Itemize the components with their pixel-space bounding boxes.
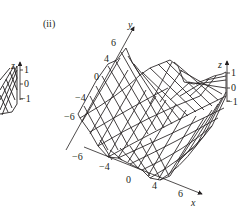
y-tick-4: 4 — [104, 53, 109, 64]
left-partial-mesh — [0, 66, 17, 115]
x-tick-0: 0 — [126, 174, 131, 185]
y-tick-6: 6 — [111, 37, 116, 48]
x-tick-neg6: −6 — [72, 151, 83, 162]
left-z-tick-1: 1 — [24, 64, 29, 75]
panel-label: (ii) — [43, 18, 55, 30]
y-tick-neg6: −6 — [64, 111, 75, 122]
z-tick-0: 0 — [231, 82, 236, 93]
y-axis-label: y — [127, 19, 133, 30]
left-z-axis-label: z — [10, 60, 15, 71]
z-tick-neg1: −1 — [227, 96, 238, 107]
y-tick-neg4: −4 — [75, 92, 86, 103]
surface-plot-figure: z 1 0 −1 (ii) y 6 4 0 −4 −6 z 1 0 — [0, 0, 242, 209]
x-tick-6: 6 — [178, 188, 183, 199]
x-tick-neg4: −4 — [99, 161, 110, 172]
z-axis-label: z — [217, 59, 222, 70]
left-z-tick-0: 0 — [24, 78, 29, 89]
x-tick-4: 4 — [152, 180, 157, 191]
left-z-tick-neg1: −1 — [20, 93, 31, 104]
z-tick-1: 1 — [231, 67, 236, 78]
x-axis-label: x — [190, 197, 196, 208]
